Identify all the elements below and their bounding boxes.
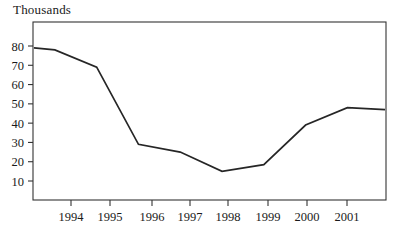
y-tick-label: 60	[12, 78, 25, 92]
data-series-line	[34, 48, 385, 171]
x-axis-ticks	[71, 200, 347, 206]
y-tick-label: 40	[12, 117, 25, 131]
x-tick-label: 1995	[98, 210, 123, 224]
chart-screenshot: Thousands 1020304050607080 1994199519961…	[0, 0, 397, 232]
x-tick-label: 2001	[335, 210, 360, 224]
data-series-polyline	[34, 48, 385, 171]
plot-border	[33, 22, 386, 200]
y-tick-label: 80	[12, 40, 25, 54]
y-axis-ticks	[28, 46, 33, 181]
x-tick-label: 2000	[295, 210, 320, 224]
y-tick-label: 20	[12, 155, 25, 169]
y-tick-label: 50	[12, 97, 25, 111]
y-tick-label: 10	[12, 175, 25, 189]
x-tick-label: 1999	[256, 210, 281, 224]
y-axis-tick-labels: 1020304050607080	[12, 40, 25, 189]
line-chart-plot: 1020304050607080 19941995199619971998199…	[0, 0, 397, 232]
x-tick-label: 1994	[59, 210, 85, 224]
y-tick-label: 30	[12, 136, 25, 150]
y-tick-label: 70	[12, 59, 25, 73]
x-axis-tick-labels: 19941995199619971998199920002001	[59, 210, 360, 224]
axis-frame	[33, 22, 386, 200]
x-tick-label: 1998	[216, 210, 241, 224]
x-tick-label: 1997	[178, 210, 203, 224]
x-tick-label: 1996	[140, 210, 165, 224]
